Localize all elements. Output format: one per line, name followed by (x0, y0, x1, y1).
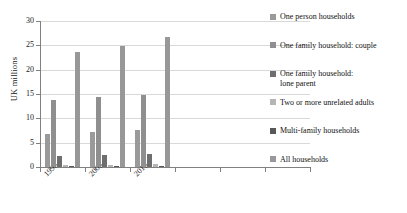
bar (90, 132, 96, 167)
bar (108, 165, 114, 167)
legend-item[interactable]: One family household: lone parent (270, 69, 353, 88)
bar (165, 37, 171, 167)
bar (102, 155, 108, 167)
legend-item[interactable]: One family household: couple (270, 41, 377, 51)
y-tick-label: 30 (12, 17, 34, 25)
legend-label: Multi-family households (280, 126, 359, 136)
bar (147, 154, 153, 167)
legend-swatch-icon (270, 128, 276, 134)
x-tick-mark (265, 167, 266, 172)
legend-item[interactable]: Multi-family households (270, 126, 359, 136)
bar (141, 95, 147, 167)
legend-label: One family household: couple (280, 41, 377, 51)
bar (63, 165, 69, 167)
bar (69, 166, 75, 167)
bar (51, 100, 57, 167)
legend-swatch-icon (270, 14, 276, 20)
legend-item[interactable]: One person households (270, 12, 355, 22)
y-tick-label: 0 (12, 163, 34, 171)
legend-swatch-icon (270, 156, 276, 162)
y-tick-label: 25 (12, 41, 34, 49)
bar (153, 164, 159, 167)
bar (96, 97, 102, 167)
x-tick-mark (175, 167, 176, 172)
bar (114, 166, 120, 167)
bar (159, 166, 165, 167)
bar (75, 52, 81, 167)
y-tick-label: 15 (12, 90, 34, 98)
y-tick-label: 20 (12, 66, 34, 74)
y-axis-title: UK millions (9, 43, 19, 115)
x-tick-mark (220, 167, 221, 172)
legend-swatch-icon (270, 99, 276, 105)
legend-swatch-icon (270, 71, 276, 77)
bar (57, 156, 63, 167)
bar (120, 46, 126, 167)
legend-item[interactable]: Two or more unrelated adults (270, 98, 374, 108)
bar (135, 130, 141, 167)
legend-item[interactable]: All households (270, 155, 328, 165)
legend-label: One person households (280, 12, 355, 22)
legend-label: Two or more unrelated adults (280, 98, 374, 108)
y-tick-label: 10 (12, 114, 34, 122)
legend-swatch-icon (270, 42, 276, 48)
y-tick-label: 5 (12, 139, 34, 147)
x-tick-mark (310, 167, 311, 172)
legend-label: One family household: lone parent (280, 69, 353, 88)
bar-chart-figure: UK millions 302520151050 199620052015 On… (0, 0, 407, 213)
legend-label: All households (280, 155, 328, 165)
bar (45, 134, 51, 167)
